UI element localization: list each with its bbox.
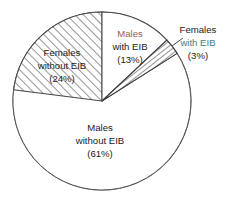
label-males-with-eib-line2: with EIB bbox=[111, 41, 147, 52]
label-females-with-eib-value: (3%) bbox=[188, 50, 208, 61]
label-females-without-eib-value: (24%) bbox=[49, 73, 75, 84]
label-females-without-eib-line1: Females bbox=[44, 47, 81, 58]
label-females-with-eib-line1: Females bbox=[180, 24, 217, 35]
pie-chart: Males with EIB (13%) Females with EIB (3… bbox=[0, 0, 235, 200]
label-males-without-eib-value: (61%) bbox=[87, 148, 113, 159]
label-males-with-eib-value: (13%) bbox=[117, 54, 143, 65]
label-females-with-eib-line2: with EIB bbox=[179, 37, 215, 48]
label-males-without-eib-line1: Males bbox=[87, 122, 113, 133]
label-males-without-eib-line2: without EIB bbox=[75, 135, 125, 146]
pie-chart-svg: Males with EIB (13%) Females with EIB (3… bbox=[0, 0, 235, 200]
label-females-without-eib-line2: without EIB bbox=[37, 60, 87, 71]
label-males-with-eib-line1: Males bbox=[117, 28, 143, 39]
